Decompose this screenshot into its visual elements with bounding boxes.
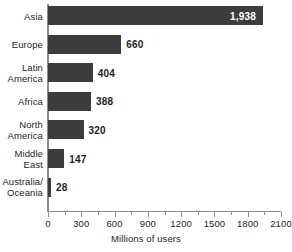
x-tick-label: 2100 [270, 218, 292, 229]
category-label: Africa [0, 96, 43, 107]
category-label-line: Middle [0, 148, 43, 159]
x-tick-minor [65, 212, 66, 215]
bar [48, 149, 64, 168]
bar [48, 120, 84, 139]
bar-row: MiddleEast147 [0, 149, 292, 168]
category-label: Australia/Oceania [0, 176, 43, 198]
category-label: MiddleEast [0, 148, 43, 170]
x-tick-major [148, 212, 149, 217]
x-tick-major [281, 212, 282, 217]
bar-row: NorthAmerica320 [0, 120, 292, 139]
bar-chart: Asia1,938Europe660LatinAmerica404Africa3… [0, 0, 292, 252]
x-tick-minor [231, 212, 232, 215]
bar-value-label: 28 [56, 182, 68, 193]
category-label: LatinAmerica [0, 62, 43, 84]
x-axis-title: Millions of users [0, 233, 292, 244]
category-label-line: East [0, 159, 43, 170]
bar-row: Africa388 [0, 92, 292, 111]
x-tick-label: 0 [45, 218, 50, 229]
category-label-line: Australia/ [0, 176, 43, 187]
category-label: Europe [0, 39, 43, 50]
x-tick-major [115, 212, 116, 217]
x-tick-label: 1200 [170, 218, 192, 229]
x-tick-label: 900 [140, 218, 156, 229]
category-label-line: Asia [0, 10, 43, 21]
x-tick-major [81, 212, 82, 217]
x-tick-minor [131, 212, 132, 215]
category-label: NorthAmerica [0, 119, 43, 141]
bar-row: Australia/Oceania28 [0, 178, 292, 197]
bar [48, 92, 91, 111]
category-label-line: America [0, 73, 43, 84]
x-tick-minor [165, 212, 166, 215]
x-tick-label: 300 [73, 218, 89, 229]
category-label-line: Oceania [0, 187, 43, 198]
category-label: Asia [0, 10, 43, 21]
bar-row: Europe660 [0, 35, 292, 54]
category-label-line: Africa [0, 96, 43, 107]
x-tick-major [181, 212, 182, 217]
bar-value-label: 388 [96, 96, 113, 107]
bar [48, 35, 121, 54]
bar-row: Asia1,938 [0, 6, 292, 25]
bar-value-label: 660 [126, 39, 143, 50]
category-label-line: Latin [0, 62, 43, 73]
bar-value-label: 320 [89, 124, 106, 135]
bar-value-label: 1,938 [230, 10, 256, 21]
bar [48, 178, 51, 197]
bar-value-label: 404 [98, 67, 115, 78]
category-label-line: America [0, 130, 43, 141]
category-label-line: Europe [0, 39, 43, 50]
x-tick-major [248, 212, 249, 217]
x-tick-minor [98, 212, 99, 215]
bar [48, 63, 93, 82]
x-tick-minor [198, 212, 199, 215]
x-tick-label: 600 [106, 218, 122, 229]
bar-row: LatinAmerica404 [0, 63, 292, 82]
x-tick-label: 1800 [237, 218, 259, 229]
bar-value-label: 147 [69, 153, 86, 164]
x-tick-minor [264, 212, 265, 215]
x-tick-major [48, 212, 49, 217]
category-label-line: North [0, 119, 43, 130]
x-tick-label: 1500 [204, 218, 226, 229]
x-tick-major [214, 212, 215, 217]
